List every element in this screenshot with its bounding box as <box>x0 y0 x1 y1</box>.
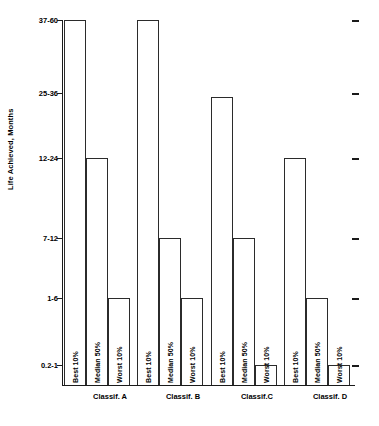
bar-series-label-text: Median 50% <box>94 342 101 383</box>
bar[interactable]: Median 50% <box>306 298 328 385</box>
bar-series-label: Best 10% <box>285 327 305 383</box>
bar-series-label-text: Best 10% <box>72 351 79 383</box>
bar-series-label-text: Worst 10% <box>336 346 343 383</box>
bar-series-label: Worst 10% <box>182 327 202 383</box>
y-axis-tick-labels: 37-6025-3612-247-121-60.2-1 <box>14 0 58 426</box>
bar-series-label-text: Median 50% <box>167 342 174 383</box>
bar-series-label-text: Best 10% <box>219 351 226 383</box>
bar-series-label: Worst 10% <box>109 327 129 383</box>
bar-series-label-text: Best 10% <box>292 351 299 383</box>
bar-series-label-text: Worst 10% <box>116 346 123 383</box>
y-tick-label: 0.2-1 <box>14 361 58 370</box>
y-tick-label: 12-24 <box>14 154 58 163</box>
bar-series-label-text: Best 10% <box>145 351 152 383</box>
bar-series-label: Best 10% <box>138 327 158 383</box>
bar-series-label-text: Median 50% <box>241 342 248 383</box>
bar-series-label: Median 50% <box>234 327 254 383</box>
bar-series-label: Median 50% <box>87 327 107 383</box>
y-tick-label: 37-60 <box>14 16 58 25</box>
bar[interactable]: Median 50% <box>86 158 108 385</box>
group-label: Classif.C <box>241 392 273 401</box>
group-label: Classif. D <box>313 392 347 401</box>
bar-series-label: Best 10% <box>212 327 232 383</box>
bar[interactable]: Worst 10% <box>181 298 203 385</box>
bar-series-label-text: Median 50% <box>314 342 321 383</box>
bar-series-label: Worst 10% <box>256 327 276 383</box>
y-tick-label: 1-6 <box>14 294 58 303</box>
bar-series-label: Median 50% <box>160 327 180 383</box>
group-label: Classif. B <box>166 392 200 401</box>
bar[interactable]: Worst 10% <box>108 298 130 385</box>
y-tick-label: 25-36 <box>14 89 58 98</box>
plot-area: Best 10%Median 50%Worst 10%Best 10%Media… <box>62 0 355 426</box>
bar-series-label-text: Worst 10% <box>263 346 270 383</box>
bar[interactable]: Worst 10% <box>328 365 350 385</box>
bar[interactable]: Best 10% <box>64 20 86 385</box>
group-label: Classif. A <box>93 392 127 401</box>
bar-series-label: Best 10% <box>65 327 85 383</box>
bar-series-label-text: Worst 10% <box>189 346 196 383</box>
bar[interactable]: Median 50% <box>233 238 255 385</box>
bar[interactable]: Best 10% <box>211 97 233 385</box>
bar[interactable]: Best 10% <box>137 20 159 385</box>
chart-container: Life Achieved, Months 37-6025-3612-247-1… <box>0 0 379 426</box>
bar[interactable]: Worst 10% <box>255 365 277 385</box>
y-tick-label: 7-12 <box>14 234 58 243</box>
bar[interactable]: Best 10% <box>284 158 306 385</box>
bar-series-label: Worst 10% <box>329 327 349 383</box>
bar[interactable]: Median 50% <box>159 238 181 385</box>
bar-series-label: Median 50% <box>307 327 327 383</box>
